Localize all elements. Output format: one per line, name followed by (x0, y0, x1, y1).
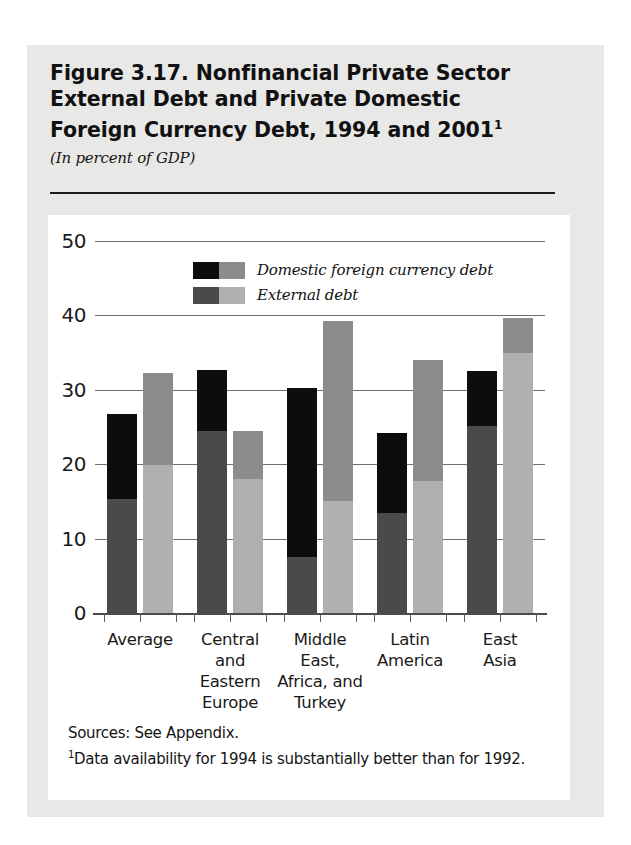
x-tick-0-0-0 (104, 613, 105, 622)
chart-legend: Domestic foreign currency debt External … (193, 259, 493, 309)
y-tick-label-30: 30 (62, 377, 86, 401)
legend-swatch-external (193, 287, 245, 304)
x-tick-3-1-1 (446, 613, 447, 622)
legend-label-external: External debt (257, 286, 358, 304)
y-tick-label-40: 40 (62, 303, 86, 327)
footnotes: Sources: See Appendix. 1Data availabilit… (68, 723, 578, 770)
x-axis-label-0: Average (95, 629, 185, 650)
x-tick-4-0-0 (464, 613, 465, 622)
legend-swatch-external-1994 (193, 287, 219, 304)
x-axis-label-1: CentralandEasternEurope (185, 629, 275, 713)
x-label-line: and (215, 651, 245, 670)
x-axis-label-2: MiddleEast,Africa, andTurkey (275, 629, 365, 713)
bar-segment-1994-domestic-0 (107, 414, 137, 500)
bar-segment-2001-domestic-4 (503, 318, 533, 352)
y-tick-label-10: 10 (62, 526, 86, 550)
x-label-line: Asia (483, 651, 516, 670)
figure-title-line-1: Figure 3.17. Nonfinancial Private Sector (50, 61, 510, 85)
bar-segment-2001-external-2 (323, 501, 353, 613)
bar-segment-1994-domestic-1 (197, 370, 227, 431)
bar-segment-2001-external-4 (503, 353, 533, 613)
legend-swatch-domestic (193, 262, 245, 279)
legend-item-domestic: Domestic foreign currency debt (193, 259, 493, 281)
bar-1994-group-0 (107, 414, 137, 613)
gridline-40 (95, 315, 545, 316)
bar-segment-1994-domestic-2 (287, 388, 317, 557)
x-tick-1-0-0 (194, 613, 195, 622)
x-label-line: Europe (202, 693, 258, 712)
bar-2001-group-4 (503, 318, 533, 613)
title-divider (50, 192, 555, 194)
bar-2001-group-2 (323, 321, 353, 613)
y-tick-label-50: 50 (62, 229, 86, 253)
legend-swatch-domestic-1994 (193, 262, 219, 279)
gridline-50 (95, 241, 545, 242)
legend-swatch-external-2001 (219, 287, 245, 304)
x-label-line: Turkey (294, 693, 346, 712)
bar-segment-2001-domestic-1 (233, 431, 263, 479)
x-tick-2-1-0 (320, 613, 321, 622)
x-label-line: East (483, 630, 517, 649)
bar-segment-1994-domestic-3 (377, 433, 407, 513)
x-tick-3-0-0 (374, 613, 375, 622)
x-tick-2-0-0 (284, 613, 285, 622)
figure-title-line-3: Foreign Currency Debt, 1994 and 2001 (50, 118, 494, 142)
x-axis-label-3: LatinAmerica (365, 629, 455, 671)
x-tick-2-1-1 (356, 613, 357, 622)
bar-1994-group-2 (287, 388, 317, 613)
sources-note: Sources: See Appendix. (68, 723, 578, 744)
bar-2001-group-3 (413, 360, 443, 613)
bar-1994-group-1 (197, 370, 227, 613)
x-label-line: Average (107, 630, 173, 649)
bar-2001-group-0 (143, 373, 173, 613)
figure-title-line-2: External Debt and Private Domestic (50, 87, 461, 111)
x-tick-4-1-0 (500, 613, 501, 622)
x-tick-4-1-1 (536, 613, 537, 622)
bar-1994-group-3 (377, 433, 407, 613)
x-label-line: Middle (294, 630, 347, 649)
x-label-line: Central (201, 630, 259, 649)
plot-area: 01020304050 AverageCentralandEasternEuro… (95, 241, 545, 613)
bar-segment-1994-external-1 (197, 431, 227, 613)
bar-segment-2001-external-0 (143, 465, 173, 613)
bar-segment-2001-domestic-0 (143, 373, 173, 465)
x-label-line: Eastern (200, 672, 261, 691)
legend-label-domestic: Domestic foreign currency debt (257, 261, 493, 279)
x-axis-label-4: EastAsia (455, 629, 545, 671)
figure-title-footnote-marker: 1 (494, 118, 502, 132)
x-tick-0-1-0 (140, 613, 141, 622)
footnote-1-text: Data availability for 1994 is substantia… (74, 750, 525, 768)
y-tick-label-20: 20 (62, 452, 86, 476)
bar-segment-2001-external-3 (413, 481, 443, 613)
bar-segment-2001-domestic-3 (413, 360, 443, 481)
x-label-line: East, (300, 651, 339, 670)
footnote-1: 1Data availability for 1994 is substanti… (68, 744, 578, 770)
x-tick-0-1-1 (176, 613, 177, 622)
bar-segment-2001-domestic-2 (323, 321, 353, 502)
bar-segment-1994-external-3 (377, 513, 407, 613)
bar-2001-group-1 (233, 431, 263, 613)
figure-title: Figure 3.17. Nonfinancial Private Sector… (50, 60, 570, 143)
bar-1994-group-4 (467, 371, 497, 613)
x-tick-3-1-0 (410, 613, 411, 622)
y-tick-label-0: 0 (74, 601, 86, 625)
bar-segment-1994-external-0 (107, 499, 137, 613)
figure-heading: Figure 3.17. Nonfinancial Private Sector… (50, 60, 570, 167)
x-label-line: Latin (390, 630, 429, 649)
bar-segment-2001-external-1 (233, 479, 263, 613)
bar-segment-1994-external-2 (287, 557, 317, 613)
figure-subtitle: (In percent of GDP) (50, 149, 570, 167)
bar-segment-1994-domestic-4 (467, 371, 497, 425)
x-tick-1-1-0 (230, 613, 231, 622)
bar-segment-1994-external-4 (467, 426, 497, 613)
x-tick-1-1-1 (266, 613, 267, 622)
legend-item-external: External debt (193, 284, 493, 306)
x-label-line: Africa, and (277, 672, 362, 691)
chart-card: 01020304050 AverageCentralandEasternEuro… (48, 215, 570, 800)
x-label-line: America (377, 651, 443, 670)
legend-swatch-domestic-2001 (219, 262, 245, 279)
